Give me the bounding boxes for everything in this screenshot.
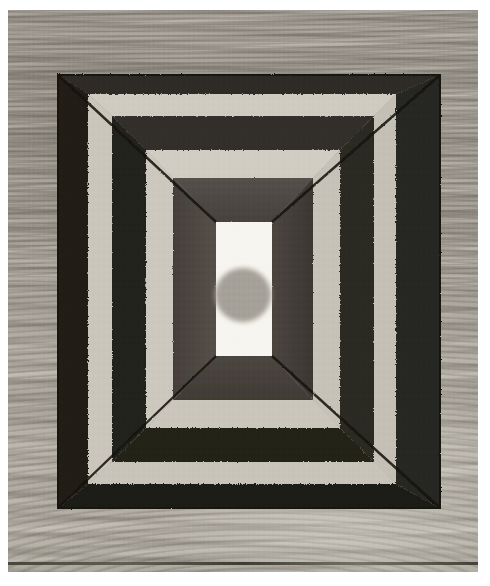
dark-ring-2-right <box>340 116 374 462</box>
artwork-photograph <box>8 10 478 572</box>
light-ring-2-top <box>146 150 340 178</box>
dark-ring-2-top <box>112 116 374 150</box>
center-gray-circle <box>215 268 271 322</box>
light-ring-1-left <box>88 94 112 484</box>
dark-ring-2-left <box>112 116 146 462</box>
light-ring-1-right <box>374 94 396 484</box>
light-ring-1-bottom <box>88 462 396 484</box>
light-ring-2-right <box>313 150 340 428</box>
light-ring-2-bottom <box>146 400 340 428</box>
outer-frame-top <box>58 75 440 94</box>
outer-frame-left <box>58 75 88 508</box>
tunnel-perspective-drawing <box>8 10 478 572</box>
panel-bottom-edge-line <box>8 562 478 565</box>
light-ring-1-top <box>88 94 396 116</box>
light-ring-2-left <box>146 150 173 428</box>
outer-frame-right <box>396 75 440 508</box>
outer-frame-bottom <box>58 484 440 508</box>
dark-ring-2-bottom <box>112 428 374 462</box>
